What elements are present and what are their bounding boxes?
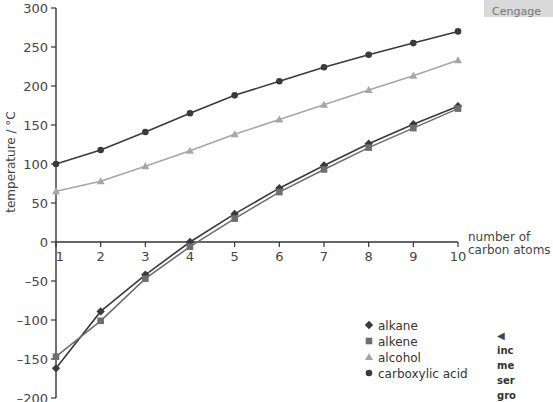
y-tick-label: –50	[25, 274, 48, 289]
x-tick-label: 4	[186, 249, 194, 264]
line-chart: 300250200150100500–50–100–150–200 123456…	[0, 0, 553, 402]
x-tick-label: 2	[97, 249, 105, 264]
legend-item-label: carboxylic acid	[378, 367, 468, 381]
y-tick-label: 200	[23, 79, 48, 94]
left-arrow-icon: ◀	[497, 328, 553, 343]
y-axis-title: temperature / °C	[4, 111, 18, 212]
legend-item-label: alkene	[378, 335, 418, 349]
side-note-line: me	[497, 358, 553, 373]
y-tick-label: 300	[23, 1, 48, 16]
side-box-label: Cengage	[484, 5, 541, 18]
x-tick-label: 9	[409, 249, 417, 264]
y-tick-label: 50	[31, 196, 48, 211]
y-tick-label: 150	[23, 118, 48, 133]
x-tick-label: 5	[231, 249, 239, 264]
series-carboxylic-acid	[53, 28, 462, 167]
side-note: ◀ inc me ser gro	[497, 328, 553, 402]
legend: alkanealkenealcoholcarboxylic acid	[365, 319, 468, 381]
y-tick-label: –200	[17, 391, 48, 402]
y-tick-label: –100	[17, 313, 48, 328]
side-note-line: gro	[497, 388, 553, 402]
y-tick-label: 100	[23, 157, 48, 172]
side-note-line: ser	[497, 373, 553, 388]
x-axis-title: number ofcarbon atoms	[468, 230, 551, 257]
y-axis: 300250200150100500–50–100–150–200	[17, 1, 56, 402]
side-note-line: inc	[497, 343, 553, 358]
side-box: Cengage	[484, 0, 553, 17]
x-tick-label: 8	[365, 249, 373, 264]
x-axis: 12345678910	[56, 242, 466, 264]
y-tick-label: 0	[40, 235, 48, 250]
x-tick-label: 10	[450, 249, 467, 264]
x-tick-label: 1	[56, 249, 64, 264]
x-tick-label: 7	[320, 249, 328, 264]
legend-item-label: alcohol	[378, 351, 421, 365]
y-tick-label: 250	[23, 40, 48, 55]
x-tick-label: 6	[275, 249, 283, 264]
legend-item-label: alkane	[378, 319, 418, 333]
y-tick-label: –150	[17, 352, 48, 367]
x-tick-label: 3	[141, 249, 149, 264]
series-alcohol	[52, 56, 462, 194]
